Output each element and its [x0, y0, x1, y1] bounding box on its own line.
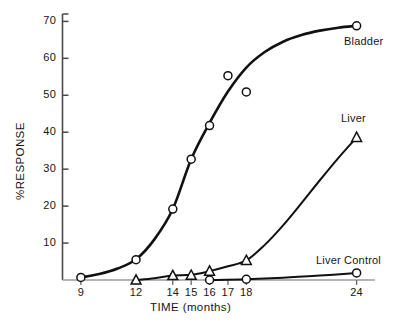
- marker-bladder-x12: [132, 256, 140, 264]
- marker-liver-x24: [352, 132, 362, 141]
- marker-bladder-x15: [187, 155, 195, 163]
- y-tick-label-50: 50: [22, 88, 56, 100]
- x-axis-title: TIME (months): [150, 301, 231, 313]
- marker-bladder-x17: [224, 72, 232, 80]
- chart-figure: 10203040506070912141516171824TIME (month…: [0, 0, 402, 323]
- series-label-bladder: Bladder: [344, 35, 383, 47]
- series-label-liver: Liver: [341, 112, 366, 124]
- x-tick-label-18: 18: [232, 286, 260, 298]
- x-tick-label-12: 12: [122, 286, 150, 298]
- marker-liver-control-x16: [206, 276, 214, 284]
- x-tick-label-24: 24: [343, 286, 371, 298]
- y-tick-label-10: 10: [22, 236, 56, 248]
- marker-bladder-x9: [77, 273, 85, 281]
- series-label-liver-control: Liver Control: [316, 254, 381, 266]
- x-tick-label-9: 9: [67, 286, 95, 298]
- marker-bladder-x18: [242, 88, 250, 96]
- marker-liver-control-x18: [242, 275, 250, 283]
- marker-liver-x18: [241, 255, 251, 264]
- marker-bladder-x24: [353, 22, 361, 30]
- y-tick-label-40: 40: [22, 125, 56, 137]
- chart-plot-area: [0, 0, 402, 323]
- y-tick-label-70: 70: [22, 14, 56, 26]
- y-axis-title: %RESPONSE: [14, 122, 26, 200]
- marker-bladder-x16: [206, 122, 214, 130]
- marker-liver-control-x24: [353, 269, 361, 277]
- y-tick-label-60: 60: [22, 51, 56, 63]
- y-tick-label-30: 30: [22, 162, 56, 174]
- y-tick-label-20: 20: [22, 199, 56, 211]
- series-curve-bladder: [81, 26, 357, 278]
- marker-bladder-x14: [169, 205, 177, 213]
- series-curve-liver-control: [210, 273, 357, 280]
